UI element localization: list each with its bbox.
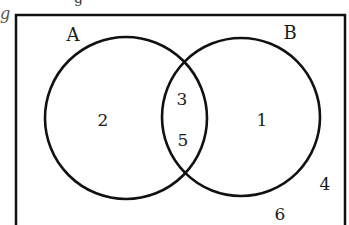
region-intersection-bottom: 5 <box>178 132 189 149</box>
universal-set-border <box>16 15 345 225</box>
region-b-only: 1 <box>257 112 268 129</box>
region-outside-6: 6 <box>275 206 286 223</box>
set-b-label: B <box>283 24 296 42</box>
region-a-only: 2 <box>98 112 109 129</box>
set-a-label: A <box>67 26 80 44</box>
set-a-circle <box>45 37 207 199</box>
region-outside-4: 4 <box>320 176 331 193</box>
cropped-top-text: g <box>74 0 83 5</box>
cropped-margin-text: g <box>0 6 10 22</box>
region-intersection-top: 3 <box>177 91 188 108</box>
venn-diagram-graphic <box>0 0 349 225</box>
set-b-circle <box>162 38 320 196</box>
venn-diagram: g g A B 2 3 5 1 4 6 <box>0 0 349 225</box>
